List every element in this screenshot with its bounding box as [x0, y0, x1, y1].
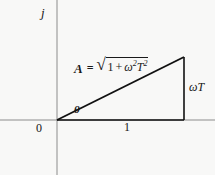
angle-theta-label: θ	[74, 104, 80, 115]
formula-tee-exponent: 2	[143, 59, 147, 68]
formula-magnitude-symbol: A	[74, 55, 83, 77]
diagram-canvas	[0, 0, 215, 175]
imaginary-axis-label: j	[41, 6, 45, 19]
radical-sign-icon: √	[97, 56, 106, 73]
formula-radical: √ 1+ω2T2	[97, 55, 149, 75]
phasor-diagram-figure: j 0 θ 1 ωT A = √ 1+ω2T2	[0, 0, 215, 175]
origin-label: 0	[36, 122, 42, 134]
formula-equals-sign: =	[83, 55, 97, 76]
formula-term-one: 1	[108, 60, 114, 74]
formula-radicand: 1+ω2T2	[106, 57, 149, 75]
real-axis-tick-label: 1	[124, 121, 130, 133]
omega-t-side-label: ωT	[189, 81, 204, 93]
magnitude-formula: A = √ 1+ω2T2	[74, 55, 148, 77]
formula-omega-symbol: ω	[124, 60, 132, 74]
formula-plus-operator: +	[114, 60, 125, 74]
